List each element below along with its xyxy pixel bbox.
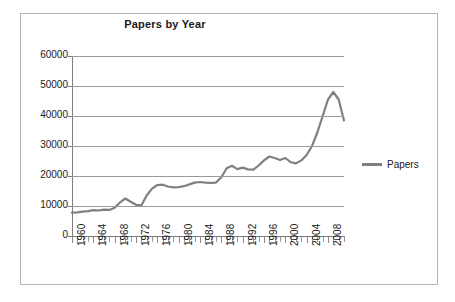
x-tick-2004 xyxy=(307,237,308,243)
legend-line-swatch xyxy=(362,163,382,166)
y-tick-mark-60000 xyxy=(68,56,72,57)
x-axis-label-1980: 1980 xyxy=(183,224,194,246)
x-tick-1999 xyxy=(280,237,281,242)
x-tick-1976 xyxy=(157,237,158,243)
chart-title: Papers by Year xyxy=(0,18,330,30)
x-axis-label-1968: 1968 xyxy=(119,224,130,246)
x-tick-1971 xyxy=(131,237,132,242)
x-axis-label-1992: 1992 xyxy=(247,224,258,246)
x-tick-2003 xyxy=(301,237,302,242)
gridline-20000 xyxy=(72,176,344,177)
x-tick-1975 xyxy=(152,237,153,242)
chart-legend: Papers xyxy=(362,159,419,170)
x-tick-1972 xyxy=(136,237,137,243)
y-tick-mark-10000 xyxy=(68,206,72,207)
y-axis-labels: 0100002000030000400005000060000 xyxy=(18,56,68,237)
x-axis-label-1976: 1976 xyxy=(161,224,172,246)
x-axis-label-1984: 1984 xyxy=(204,224,215,246)
x-axis-label-1972: 1972 xyxy=(140,224,151,246)
y-tick-label-60000: 60000 xyxy=(20,49,68,60)
x-axis-label-1964: 1964 xyxy=(97,224,108,246)
y-tick-mark-20000 xyxy=(68,176,72,177)
x-tick-1960 xyxy=(72,237,73,243)
y-tick-label-30000: 30000 xyxy=(20,139,68,150)
x-tick-1979 xyxy=(173,237,174,242)
x-tick-1996 xyxy=(264,237,265,243)
x-tick-1992 xyxy=(243,237,244,243)
x-tick-2008 xyxy=(328,237,329,243)
y-tick-mark-40000 xyxy=(68,116,72,117)
x-tick-1991 xyxy=(237,237,238,242)
y-tick-label-10000: 10000 xyxy=(20,199,68,210)
x-axis-label-2004: 2004 xyxy=(311,224,322,246)
x-axis-label-2008: 2008 xyxy=(332,224,343,246)
x-tick-1987 xyxy=(216,237,217,242)
x-axis-label-1988: 1988 xyxy=(225,224,236,246)
y-tick-label-20000: 20000 xyxy=(20,169,68,180)
x-tick-2007 xyxy=(323,237,324,242)
x-tick-1968 xyxy=(115,237,116,243)
y-tick-label-0: 0 xyxy=(20,229,68,240)
y-tick-mark-30000 xyxy=(68,146,72,147)
x-tick-1980 xyxy=(179,237,180,243)
x-tick-1967 xyxy=(109,237,110,242)
x-tick-1995 xyxy=(259,237,260,242)
x-axis-label-1960: 1960 xyxy=(76,224,87,246)
y-tick-mark-50000 xyxy=(68,86,72,87)
x-tick-1984 xyxy=(200,237,201,243)
gridline-30000 xyxy=(72,146,344,147)
x-tick-1963 xyxy=(88,237,89,242)
gridline-60000 xyxy=(72,56,344,57)
plot-area xyxy=(72,56,344,236)
x-tick-2000 xyxy=(285,237,286,243)
gridline-50000 xyxy=(72,86,344,87)
gridline-10000 xyxy=(72,206,344,207)
papers-polyline xyxy=(72,92,344,213)
x-axis-label-1996: 1996 xyxy=(268,224,279,246)
x-axis-label-2000: 2000 xyxy=(289,224,300,246)
y-tick-label-40000: 40000 xyxy=(20,109,68,120)
x-tick-1983 xyxy=(195,237,196,242)
y-tick-label-50000: 50000 xyxy=(20,79,68,90)
x-tick-2011 xyxy=(344,237,345,242)
legend-label-papers: Papers xyxy=(387,159,419,170)
x-tick-1988 xyxy=(221,237,222,243)
x-tick-1964 xyxy=(93,237,94,243)
gridline-40000 xyxy=(72,116,344,117)
